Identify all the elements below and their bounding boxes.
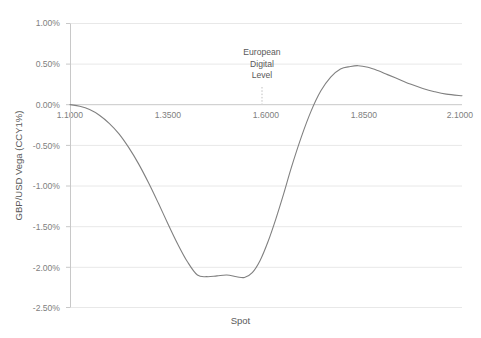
european-digital-level-annotation: European Digital Level <box>212 47 312 82</box>
annotation-line-1: European <box>212 47 312 59</box>
annotation-line-3: Level <box>212 70 312 82</box>
vega-curve <box>70 66 462 278</box>
chart-container: GBP/USD Vega (CCY1%) Spot 1.00% 0.50% 0.… <box>0 0 481 338</box>
annotation-line-2: Digital <box>212 59 312 71</box>
y-axis-ticks <box>66 24 70 308</box>
